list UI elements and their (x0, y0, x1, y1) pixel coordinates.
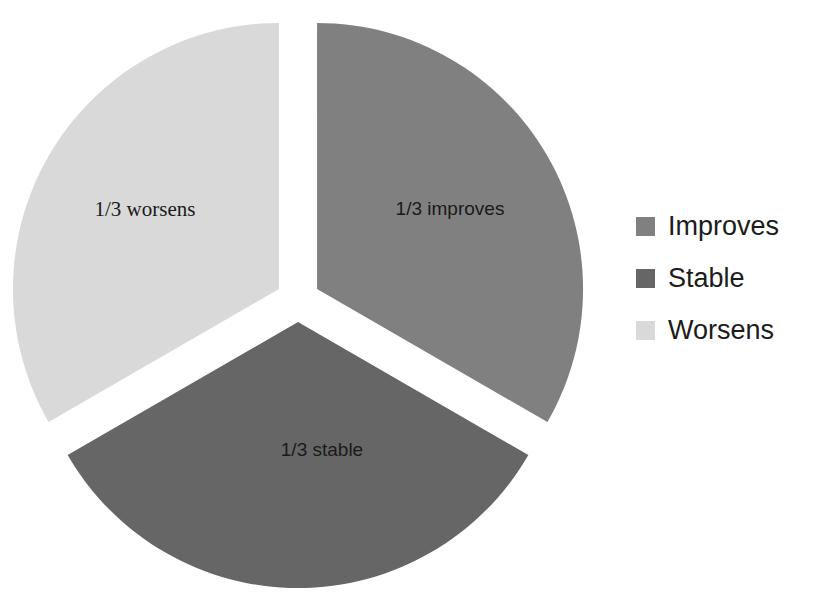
legend-item-improves[interactable]: Improves (636, 200, 832, 252)
pie-chart-figure: 1/3 improves1/3 stable1/3 worsens Improv… (0, 0, 836, 602)
pie-slices-group (13, 23, 583, 588)
legend-swatch-worsens (636, 321, 655, 340)
legend-label-stable: Stable (668, 265, 745, 292)
legend-item-stable[interactable]: Stable (636, 252, 832, 304)
pie-slice-label-improves: 1/3 improves (396, 198, 505, 219)
legend-swatch-improves (636, 217, 655, 236)
pie-slice-label-worsens: 1/3 worsens (95, 197, 196, 221)
pie-slice-label-stable: 1/3 stable (281, 439, 363, 460)
legend-label-worsens: Worsens (668, 317, 774, 344)
chart-legend: ImprovesStableWorsens (636, 200, 832, 356)
legend-label-improves: Improves (668, 213, 779, 240)
legend-item-worsens[interactable]: Worsens (636, 304, 832, 356)
legend-swatch-stable (636, 269, 655, 288)
